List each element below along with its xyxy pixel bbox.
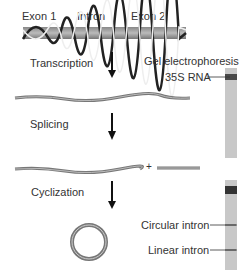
band-label-linear-intron: Linear intron bbox=[148, 244, 209, 256]
gel-title: Gel electrophoresis bbox=[144, 55, 239, 67]
arrow-cyclization bbox=[108, 181, 116, 209]
arrow-splicing bbox=[108, 113, 116, 140]
step-cyclization: Cyclization bbox=[31, 186, 84, 198]
plus-sign: + bbox=[146, 161, 152, 172]
gel-lane-top bbox=[225, 68, 237, 158]
dna-helix bbox=[23, 0, 186, 96]
step-splicing: Splicing bbox=[30, 118, 69, 130]
step-transcription: Transcription bbox=[30, 57, 93, 69]
diagram-graphics bbox=[0, 0, 248, 280]
spliced-exons-strand bbox=[15, 166, 143, 173]
band-label-35s-rna: 35S RNA bbox=[165, 71, 211, 83]
band-label-circular-intron: Circular intron bbox=[141, 219, 209, 231]
